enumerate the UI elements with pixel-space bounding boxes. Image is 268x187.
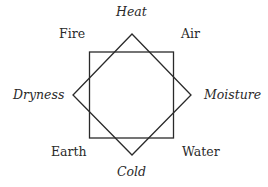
label-cold: Cold [117,166,146,179]
label-fire: Fire [59,28,85,41]
label-earth: Earth [51,146,87,159]
label-heat: Heat [116,6,147,19]
label-moisture: Moisture [204,89,261,102]
label-water: Water [182,146,220,159]
label-dryness: Dryness [13,89,64,102]
label-air: Air [181,28,200,41]
